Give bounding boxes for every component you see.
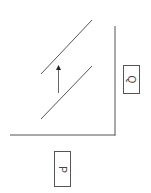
lower-line [41,66,92,119]
q-label-box: Q [123,65,140,94]
upper-line [41,20,92,74]
p-label-box: P [54,151,71,187]
shift-arrow-head-icon [56,65,61,70]
p-label: P [57,166,68,173]
diagram-canvas [0,0,151,193]
q-label: Q [126,76,137,84]
